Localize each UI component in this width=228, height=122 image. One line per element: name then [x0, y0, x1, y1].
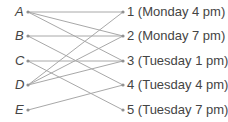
left-node-label-d: D	[15, 78, 24, 92]
right-node-label-2: 2 (Monday 7 pm)	[127, 29, 225, 43]
left-node-label-b: B	[15, 29, 24, 43]
left-node-dot-c	[26, 59, 29, 62]
right-node-label-5: 5 (Tuesday 7 pm)	[127, 103, 228, 117]
edge-C-5	[28, 61, 123, 110]
right-node-dot-3	[121, 59, 124, 62]
left-node-label-c: C	[15, 54, 24, 68]
right-node-label-3: 3 (Tuesday 1 pm)	[127, 54, 228, 68]
right-node-dot-4	[121, 83, 124, 86]
edge-D-3	[28, 61, 123, 85]
right-node-label-4: 4 (Tuesday 4 pm)	[127, 78, 228, 92]
edge-A-2	[28, 12, 123, 36]
left-node-label-a: A	[15, 5, 24, 19]
right-node-dot-5	[121, 108, 124, 111]
edge-D-1	[28, 12, 123, 85]
right-node-dot-2	[121, 34, 124, 37]
left-node-dot-b	[26, 34, 29, 37]
right-node-label-1: 1 (Monday 4 pm)	[127, 5, 225, 19]
right-node-dot-1	[121, 10, 124, 13]
left-node-label-e: E	[15, 103, 24, 117]
edge-E-4	[28, 85, 123, 110]
left-node-dot-a	[26, 10, 29, 13]
left-node-dot-d	[26, 83, 29, 86]
left-node-dot-e	[26, 108, 29, 111]
